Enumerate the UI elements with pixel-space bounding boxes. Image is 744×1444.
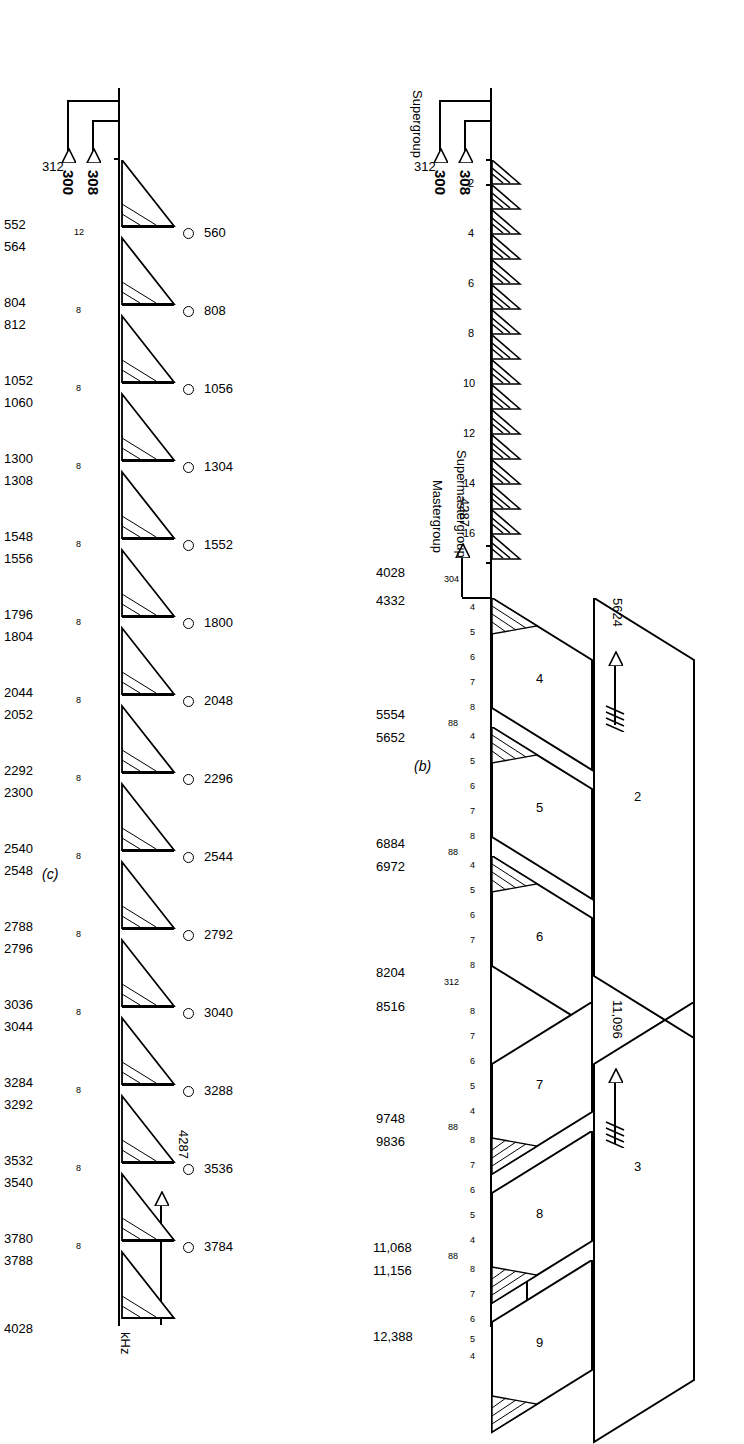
- mg6-sg-5: 5: [470, 886, 475, 895]
- carrier-1304: 1304: [204, 460, 233, 473]
- row-label-supermastergroup: Supermastergroup: [455, 450, 468, 558]
- c-edge-804: 804: [4, 296, 26, 309]
- c-edge-2796: 2796: [4, 942, 33, 955]
- sg-tick-4: 4: [468, 228, 474, 239]
- mg5-sg-5: 5: [470, 757, 475, 766]
- mg5-sg-6: 6: [470, 782, 475, 791]
- row-label-mastergroup: Mastergroup: [431, 480, 444, 553]
- c-gap-8-12: 8: [76, 1164, 81, 1173]
- carrier-808: 808: [204, 304, 226, 317]
- carrier-1552: 1552: [204, 538, 233, 551]
- caption-b: (b): [414, 758, 431, 774]
- c-gap-8-1: 8: [76, 306, 81, 315]
- sg-tick-16: 16: [463, 528, 475, 539]
- carrier-3536: 3536: [204, 1162, 233, 1175]
- supermastergroup-number-3: 3: [634, 1160, 641, 1173]
- carrier-3288: 3288: [204, 1084, 233, 1097]
- c-edge-1548: 1548: [4, 530, 33, 543]
- c-gap-12: 12: [74, 228, 84, 237]
- c-edge-2548: 2548: [4, 864, 33, 877]
- edge-12388: 12,388: [373, 1330, 413, 1343]
- gap-88-a: 88: [448, 719, 458, 728]
- mg6-sg-8: 8: [470, 961, 475, 970]
- gap-88-b: 88: [448, 848, 458, 857]
- sg-tick-10: 10: [463, 378, 475, 389]
- edge-5652: 5652: [376, 731, 405, 744]
- carrier-2048: 2048: [204, 694, 233, 707]
- c-edge-1556: 1556: [4, 552, 33, 565]
- c-edge-564: 564: [4, 240, 26, 253]
- c-edge-3532: 3532: [4, 1154, 33, 1167]
- c-edge-2292: 2292: [4, 764, 33, 777]
- mg9-sg-7: 7: [470, 1290, 475, 1299]
- carrier-560: 560: [204, 226, 226, 239]
- mg7-sg-8: 8: [470, 1007, 475, 1016]
- c-edge-3044: 3044: [4, 1020, 33, 1033]
- mastergroup-number-8: 8: [536, 1207, 543, 1220]
- supermastergroup-number-2: 2: [634, 790, 641, 803]
- c-edge-3788: 3788: [4, 1254, 33, 1267]
- supermastergroup-2: [592, 598, 696, 1040]
- mg8-sg-4: 4: [470, 1236, 475, 1245]
- c-edge-3780: 3780: [4, 1232, 33, 1245]
- sg-tick-2: 2: [468, 178, 474, 189]
- mg6-sg-4: 4: [470, 861, 475, 870]
- c-edge-1300: 1300: [4, 452, 33, 465]
- mg7-sg-5: 5: [470, 1082, 475, 1091]
- c-gap-8-8: 8: [76, 852, 81, 861]
- supermastergroup-3: [592, 1002, 696, 1444]
- edge-4028: 4028: [376, 566, 405, 579]
- mg9-sg-8: 8: [470, 1265, 475, 1274]
- mg4-sg-4: 4: [470, 603, 475, 612]
- c-gap-8-5: 8: [76, 618, 81, 627]
- edge-6884: 6884: [376, 837, 405, 850]
- carrier-3784: 3784: [204, 1240, 233, 1253]
- c-edge-1060: 1060: [4, 396, 33, 409]
- c-edge-3292: 3292: [4, 1098, 33, 1111]
- c-edge-2788: 2788: [4, 920, 33, 933]
- edge-11156: 11,156: [373, 1264, 412, 1277]
- mg6-sg-6: 6: [470, 911, 475, 920]
- mg8-sg-8: 8: [470, 1136, 475, 1145]
- panel-b-hierarchy: kHz 300 308 4287: [372, 0, 744, 1374]
- c-edge-812: 812: [4, 318, 26, 331]
- panel-c-supergroup-assembly: kHz 300 308 4287 312: [0, 0, 372, 1374]
- c-edge-3284: 3284: [4, 1076, 33, 1089]
- carrier-2792: 2792: [204, 928, 233, 941]
- c-gap-8-9: 8: [76, 930, 81, 939]
- c-edge-3036: 3036: [4, 998, 33, 1011]
- mg5-sg-8: 8: [470, 832, 475, 841]
- c-edge-2300: 2300: [4, 786, 33, 799]
- mg6-sg-7: 7: [470, 936, 475, 945]
- c-gap-8-2: 8: [76, 384, 81, 393]
- mg4-sg-8: 8: [470, 703, 475, 712]
- mg4-sg-5: 5: [470, 628, 475, 637]
- mastergroup-number-7: 7: [536, 1078, 543, 1091]
- carrier-2544: 2544: [204, 850, 233, 863]
- c-gap-8-4: 8: [76, 540, 81, 549]
- c-gap-8-3: 8: [76, 462, 81, 471]
- mg4-sg-7: 7: [470, 678, 475, 687]
- mg8-sg-7: 7: [470, 1161, 475, 1170]
- sg-tick-6: 6: [468, 278, 474, 289]
- edge-4332: 4332: [376, 594, 405, 607]
- gap-312: 312: [444, 978, 459, 987]
- c-edge-1308: 1308: [4, 474, 33, 487]
- c-edge-2044: 2044: [4, 686, 33, 699]
- c-edge-2540: 2540: [4, 842, 33, 855]
- mg7-sg-7: 7: [470, 1032, 475, 1041]
- edge-9748: 9748: [376, 1112, 405, 1125]
- edge-5554: 5554: [376, 708, 405, 721]
- c-gap-8-6: 8: [76, 696, 81, 705]
- c-edge-1796: 1796: [4, 608, 33, 621]
- gap-88-c: 88: [448, 1123, 458, 1132]
- c-edge-1804: 1804: [4, 630, 33, 643]
- c-edge-2052: 2052: [4, 708, 33, 721]
- c-edge-552: 552: [4, 218, 26, 231]
- carrier-2296: 2296: [204, 772, 233, 785]
- row-label-supergroup: Supergroup: [411, 90, 424, 158]
- c-gap-8-13: 8: [76, 1242, 81, 1251]
- carrier-1800: 1800: [204, 616, 233, 629]
- break-mark-right: [604, 1118, 626, 1148]
- edge-9836: 9836: [376, 1135, 405, 1148]
